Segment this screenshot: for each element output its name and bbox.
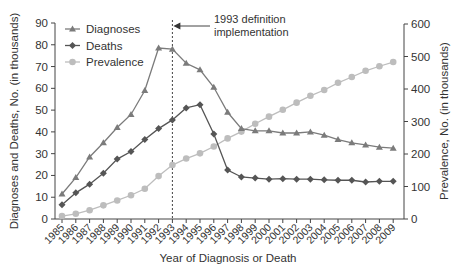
circle-marker-icon xyxy=(224,135,231,142)
circle-marker-icon xyxy=(349,74,356,81)
legend-item-prevalence: Prevalence xyxy=(65,56,144,68)
diamond-marker-icon xyxy=(321,176,328,183)
series-line xyxy=(62,105,393,205)
x-axis-title: Year of Diagnosis or Death xyxy=(159,252,296,264)
left-tick-label: 10 xyxy=(35,191,48,203)
left-tick-label: 20 xyxy=(35,169,48,181)
diamond-marker-icon xyxy=(362,178,369,185)
circle-marker-icon xyxy=(335,80,342,87)
diamond-marker-icon xyxy=(279,175,286,182)
diamond-marker-icon xyxy=(210,131,217,138)
right-tick-label: 0 xyxy=(411,213,417,225)
diamond-legend-icon xyxy=(69,42,76,49)
circle-marker-icon xyxy=(114,197,121,204)
circle-marker-icon xyxy=(293,99,300,106)
diamond-marker-icon xyxy=(266,176,273,183)
circle-marker-icon xyxy=(86,207,93,214)
circle-marker-icon xyxy=(266,113,273,120)
diamond-marker-icon xyxy=(252,175,259,182)
circle-marker-icon xyxy=(128,192,135,199)
diamond-marker-icon xyxy=(376,178,383,185)
diamond-marker-icon xyxy=(197,101,204,108)
left-tick-label: 60 xyxy=(35,82,48,94)
circle-marker-icon xyxy=(376,63,383,70)
right-tick-label: 300 xyxy=(411,116,430,128)
left-tick-label: 80 xyxy=(35,39,48,51)
left-tick-label: 30 xyxy=(35,148,48,160)
right-axis-title: Prevalence, No. (in thousands) xyxy=(438,42,450,200)
left-tick-label: 90 xyxy=(35,17,48,29)
diamond-marker-icon xyxy=(224,167,231,174)
series-layer xyxy=(59,45,397,220)
series-deaths xyxy=(59,101,397,208)
aids-trends-chart: 0102030405060708090010020030040050060019… xyxy=(0,0,462,280)
right-tick-label: 200 xyxy=(411,148,430,160)
diamond-marker-icon xyxy=(390,178,397,185)
circle-marker-icon xyxy=(321,87,328,94)
annotation-text: implementation xyxy=(214,26,289,38)
legend: DiagnosesDeathsPrevalence xyxy=(65,23,144,68)
triangle-marker-icon xyxy=(141,87,148,93)
triangle-marker-icon xyxy=(155,45,162,51)
diamond-marker-icon xyxy=(293,176,300,183)
series-prevalence xyxy=(59,59,397,220)
diamond-marker-icon xyxy=(238,173,245,180)
right-tick-label: 600 xyxy=(411,18,430,30)
circle-marker-icon xyxy=(100,202,107,209)
triangle-marker-icon xyxy=(307,128,314,134)
right-tick-label: 500 xyxy=(411,51,430,63)
legend-label: Prevalence xyxy=(86,56,144,68)
diamond-marker-icon xyxy=(307,176,314,183)
circle-marker-icon xyxy=(211,143,218,150)
left-tick-label: 40 xyxy=(35,126,48,138)
left-tick-label: 50 xyxy=(35,104,48,116)
circle-marker-icon xyxy=(362,68,369,75)
arrowhead-icon xyxy=(173,23,180,30)
triangle-marker-icon xyxy=(224,109,231,115)
triangle-marker-icon xyxy=(128,111,135,117)
right-tick-label: 100 xyxy=(411,181,430,193)
circle-marker-icon xyxy=(280,107,287,114)
left-tick-label: 0 xyxy=(42,213,48,225)
diamond-marker-icon xyxy=(348,177,355,184)
circle-marker-icon xyxy=(59,213,66,220)
circle-marker-icon xyxy=(183,155,190,162)
circle-marker-icon xyxy=(155,173,162,180)
legend-item-deaths: Deaths xyxy=(65,40,123,52)
right-tick-label: 400 xyxy=(411,83,430,95)
circle-legend-icon xyxy=(69,59,76,66)
legend-label: Deaths xyxy=(86,40,123,52)
circle-marker-icon xyxy=(142,185,149,192)
legend-label: Diagnoses xyxy=(86,23,141,35)
circle-marker-icon xyxy=(197,150,204,157)
circle-marker-icon xyxy=(252,120,259,127)
annotation-text: 1993 definition xyxy=(214,13,286,25)
diamond-marker-icon xyxy=(335,177,342,184)
circle-marker-icon xyxy=(390,59,397,66)
left-tick-label: 70 xyxy=(35,61,48,73)
circle-marker-icon xyxy=(169,162,176,169)
circle-marker-icon xyxy=(73,211,80,218)
circle-marker-icon xyxy=(307,93,314,100)
legend-item-diagnoses: Diagnoses xyxy=(65,23,141,35)
left-axis-title: Diagnoses and Deaths, No. (in thousands) xyxy=(8,12,20,229)
